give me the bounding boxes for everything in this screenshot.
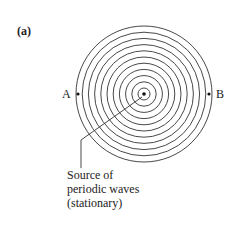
caption-line-1: Source of <box>67 168 139 182</box>
caption-line-2: periodic waves <box>67 182 139 196</box>
source-dot <box>142 92 146 96</box>
caption-line-3: (stationary) <box>67 196 139 210</box>
point-a-label: A <box>62 87 71 102</box>
point-b-label: B <box>216 87 224 102</box>
point-a-dot <box>76 92 79 95</box>
source-caption: Source of periodic waves (stationary) <box>67 168 139 210</box>
point-b-dot <box>207 92 210 95</box>
